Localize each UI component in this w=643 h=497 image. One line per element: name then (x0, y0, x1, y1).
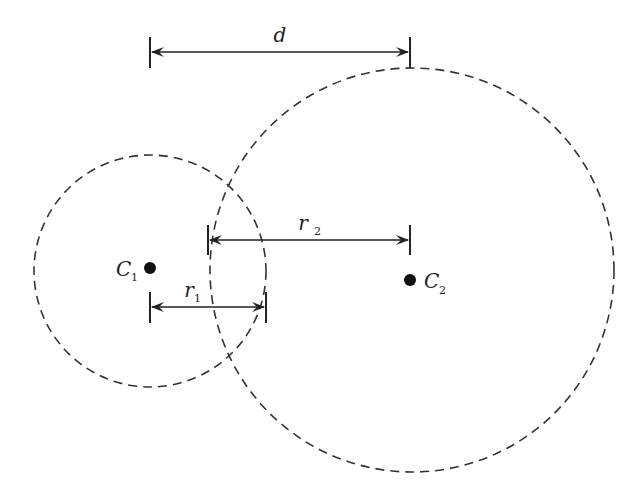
radius-1-dimension: r 1 (150, 278, 266, 323)
radius-1-subscript: 1 (194, 292, 201, 305)
center-1-label: C (116, 257, 131, 281)
center-2-label: C (424, 269, 439, 293)
center-2: C 2 (404, 269, 446, 297)
center-1-subscript: 1 (131, 271, 138, 284)
radius-2-dimension: r 2 (208, 211, 410, 255)
circles-diagram: d r 2 r 1 C 1 C 2 (0, 0, 643, 497)
distance-dimension: d (150, 23, 410, 68)
center-2-subscript: 2 (439, 284, 446, 297)
center-1: C 1 (116, 257, 156, 284)
radius-2-label: r (298, 211, 309, 235)
distance-label: d (274, 23, 287, 47)
radius-2-subscript: 2 (314, 225, 321, 238)
center-1-dot (144, 262, 156, 274)
center-2-dot (404, 274, 416, 286)
circle-2 (210, 68, 614, 472)
